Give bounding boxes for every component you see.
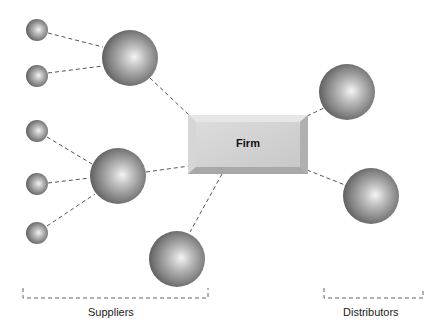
supplier-nodes — [26, 19, 205, 287]
line-s3-L2 — [47, 137, 92, 164]
line-L2-firm — [146, 166, 189, 172]
line-s4-L2 — [48, 178, 90, 183]
supplier-node-large — [102, 30, 158, 86]
line-s5-L2 — [47, 194, 95, 226]
supplier-node-small — [26, 19, 48, 41]
distributors-label: Distributors — [343, 306, 399, 318]
supplier-node-large — [149, 231, 205, 287]
suppliers-label: Suppliers — [88, 306, 134, 318]
network-diagram — [0, 0, 436, 329]
supplier-node-small — [26, 120, 48, 142]
line-L1-firm — [150, 78, 190, 116]
supplier-node-large — [90, 148, 146, 204]
distributor-nodes — [319, 64, 399, 224]
line-s1-L1 — [48, 33, 103, 47]
firm-label: Firm — [196, 137, 300, 149]
supplier-node-small — [26, 222, 48, 244]
line-firm-D1 — [307, 108, 324, 116]
line-firm-D2 — [307, 170, 345, 185]
distributor-node — [343, 168, 399, 224]
line-L3-firm — [190, 174, 222, 232]
distributor-node — [319, 64, 375, 120]
supplier-node-small — [26, 173, 48, 195]
distributors-bracket — [324, 288, 423, 298]
supplier-node-small — [26, 65, 48, 87]
suppliers-bracket — [23, 288, 208, 298]
group-brackets — [23, 288, 423, 298]
line-s2-L1 — [48, 66, 103, 73]
